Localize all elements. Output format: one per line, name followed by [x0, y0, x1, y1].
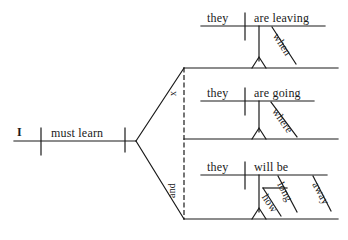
fork-upper-branch [136, 68, 184, 141]
clause-away-subject-label: they [207, 161, 228, 173]
sentence-diagram-canvas: I must learn x and they are leaving when… [0, 0, 348, 240]
clause-where-predicate-label: are going [254, 87, 301, 99]
clause-when-subject-label: they [207, 12, 228, 24]
main-predicate-label: must learn [51, 127, 103, 139]
clause-away-predicate-label: will be [254, 161, 288, 173]
fork-lower-branch [136, 141, 184, 219]
clause-when-predicate-label: are leaving [254, 12, 309, 24]
upper-conjunction-label: x [168, 91, 178, 96]
diagram-lines [0, 0, 348, 240]
main-subject-label: I [17, 126, 22, 138]
clause-where-subject-label: they [207, 87, 228, 99]
lower-conjunction-label: and [167, 183, 177, 198]
